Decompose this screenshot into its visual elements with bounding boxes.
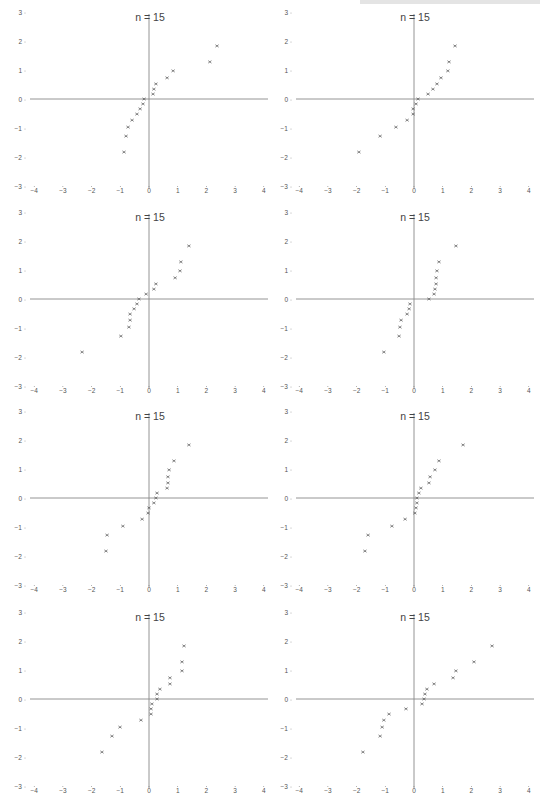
data-point-marker: [155, 492, 158, 494]
x-tick-mark: [299, 786, 300, 787]
data-point-marker: [363, 550, 366, 552]
data-point-marker: [121, 525, 124, 527]
y-tick-label: −3: [281, 383, 289, 390]
y-tick-mark: [291, 187, 292, 188]
data-point-marker: [394, 126, 397, 128]
y-tick-mark: [25, 787, 26, 788]
qq-panel-8: −3−2−10123−4−3−2−101234n = 15: [281, 609, 534, 795]
x-tick-label: −1: [382, 387, 390, 394]
data-point-marker: [381, 726, 384, 728]
y-tick-label: −1: [15, 524, 23, 531]
y-tick-label: 2: [284, 38, 288, 45]
y-tick-label: −3: [15, 383, 23, 390]
data-point-marker: [155, 693, 158, 695]
data-point-marker: [172, 460, 175, 462]
y-tick-mark: [291, 13, 292, 14]
y-tick-mark: [25, 586, 26, 587]
y-tick-label: 0: [284, 495, 288, 502]
y-tick-mark: [291, 412, 292, 413]
x-tick-label: 1: [176, 387, 180, 394]
data-point-marker: [100, 751, 103, 753]
x-tick-mark: [206, 386, 207, 387]
panel-title: n = 15: [135, 211, 165, 223]
x-tick-label: −1: [382, 787, 390, 794]
data-point-marker: [399, 319, 402, 321]
y-tick-mark: [291, 586, 292, 587]
x-tick-mark: [500, 585, 501, 586]
y-tick-mark: [291, 358, 292, 359]
y-tick-label: −2: [281, 154, 289, 161]
y-tick-mark: [25, 557, 26, 558]
y-tick-label: 3: [18, 408, 22, 415]
x-tick-label: 2: [205, 787, 209, 794]
y-tick-label: 1: [18, 667, 22, 674]
y-tick-mark: [291, 329, 292, 330]
x-tick-mark: [356, 386, 357, 387]
y-tick-mark: [291, 700, 292, 701]
data-point-marker: [179, 261, 182, 263]
y-tick-mark: [291, 613, 292, 614]
x-tick-label: 1: [441, 387, 445, 394]
x-tick-mark: [385, 386, 386, 387]
x-tick-mark: [442, 585, 443, 586]
x-tick-mark: [120, 786, 121, 787]
x-tick-mark: [263, 386, 264, 387]
y-tick-mark: [25, 729, 26, 730]
x-tick-label: 2: [205, 187, 209, 194]
x-tick-label: 3: [498, 187, 502, 194]
x-tick-mark: [528, 386, 529, 387]
y-tick-label: −2: [15, 354, 23, 361]
x-tick-mark: [471, 386, 472, 387]
x-tick-label: −4: [295, 787, 303, 794]
x-tick-mark: [328, 386, 329, 387]
y-tick-label: −1: [281, 125, 289, 132]
y-tick-label: 2: [284, 238, 288, 245]
x-tick-mark: [299, 186, 300, 187]
data-point-marker: [382, 351, 385, 353]
y-tick-label: −3: [15, 582, 23, 589]
x-tick-label: −3: [59, 586, 67, 593]
x-tick-label: −4: [30, 387, 38, 394]
data-point-marker: [135, 113, 138, 115]
y-tick-mark: [25, 42, 26, 43]
y-tick-label: −3: [281, 582, 289, 589]
y-tick-label: 2: [284, 437, 288, 444]
x-tick-label: 2: [470, 787, 474, 794]
data-point-marker: [166, 476, 169, 478]
y-tick-label: 2: [18, 38, 22, 45]
y-tick-mark: [291, 470, 292, 471]
data-point-marker: [426, 93, 429, 95]
panel-title: n = 15: [400, 611, 430, 623]
y-tick-mark: [25, 700, 26, 701]
x-tick-label: 0: [147, 387, 151, 394]
qq-plot-grid: −3−2−10123−4−3−2−101234n = 15−3−2−10123−…: [0, 0, 544, 810]
data-point-marker: [132, 308, 135, 310]
data-point-marker: [382, 719, 385, 721]
x-tick-label: 1: [176, 187, 180, 194]
y-tick-mark: [25, 71, 26, 72]
y-tick-mark: [25, 412, 26, 413]
y-tick-mark: [291, 213, 292, 214]
data-point-marker: [165, 77, 168, 79]
y-tick-label: −1: [281, 725, 289, 732]
y-tick-mark: [25, 758, 26, 759]
y-tick-mark: [291, 499, 292, 500]
data-point-marker: [404, 708, 407, 710]
y-tick-mark: [291, 129, 292, 130]
data-point-marker: [490, 645, 493, 647]
data-point-marker: [361, 751, 364, 753]
x-tick-mark: [34, 585, 35, 586]
y-tick-mark: [25, 499, 26, 500]
y-tick-label: 3: [284, 609, 288, 616]
x-tick-label: −3: [324, 787, 332, 794]
x-tick-mark: [63, 186, 64, 187]
x-tick-mark: [235, 186, 236, 187]
x-tick-label: 4: [262, 187, 266, 194]
data-point-marker: [127, 326, 130, 328]
y-tick-mark: [291, 671, 292, 672]
x-tick-label: −2: [353, 187, 361, 194]
x-tick-mark: [91, 386, 92, 387]
x-tick-mark: [177, 786, 178, 787]
x-tick-label: 4: [527, 387, 531, 394]
y-tick-label: 1: [284, 267, 288, 274]
